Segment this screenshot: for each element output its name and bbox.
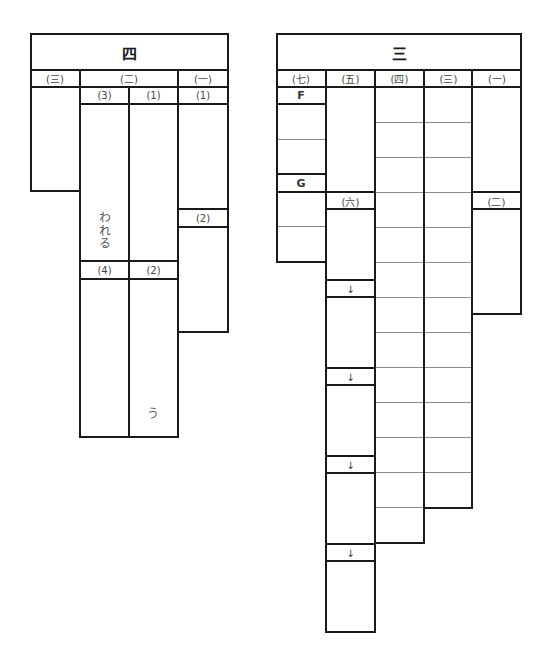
- answer-cell-ichi-2[interactable]: [179, 228, 227, 331]
- sub-label-ichi-1: (1): [178, 87, 228, 104]
- arrow-down-icon: ↓: [326, 545, 375, 561]
- grid-line: [425, 402, 471, 403]
- answer-cell-ni-1[interactable]: [130, 105, 177, 261]
- sub-label-ni-4: (4): [80, 262, 129, 279]
- answer-cell-roku-1[interactable]: [327, 210, 374, 279]
- arrow-down-icon: ↓: [326, 281, 375, 297]
- section-label-ni: (二): [80, 69, 178, 87]
- grid-line: [376, 507, 423, 508]
- sub-label-ni-right: (二): [472, 193, 521, 209]
- section-label-ichi: (一): [178, 69, 228, 87]
- grid-line: [425, 192, 471, 193]
- answer-cell-roku-4[interactable]: [327, 474, 374, 543]
- answer-cell-roku-2[interactable]: [327, 298, 374, 367]
- answer-cell-F-1[interactable]: [278, 105, 325, 139]
- sub-label-ni-3: (3): [80, 87, 129, 104]
- section-label-yon: (四): [375, 69, 424, 87]
- grid-line: [425, 367, 471, 368]
- answer-cell-ichi-1[interactable]: [179, 105, 227, 208]
- answer-cell-ni-4[interactable]: [81, 280, 128, 436]
- section-label-san: (三): [424, 69, 473, 87]
- section-label-go: (五): [326, 69, 375, 87]
- grid-line: [425, 297, 471, 298]
- grid-line: [376, 157, 423, 158]
- answer-cell-ni-right[interactable]: [473, 210, 520, 313]
- sub-label-G: G: [276, 175, 326, 192]
- sub-label-ichi-2: (2): [178, 210, 228, 227]
- sub-label-ni-1: (1): [129, 87, 178, 104]
- sub-label-F: F: [276, 87, 326, 104]
- answer-text-ni-2: う: [145, 404, 161, 420]
- grid-line: [425, 262, 471, 263]
- grid-line: [425, 437, 471, 438]
- grid-line: [376, 262, 423, 263]
- sub-label-ni-2: (2): [129, 262, 178, 279]
- answer-area-yon: [374, 86, 425, 544]
- grid-line: [425, 157, 471, 158]
- grid-line: [376, 192, 423, 193]
- answer-cell-G-2[interactable]: [278, 227, 325, 261]
- answer-cell-F-2[interactable]: [278, 140, 325, 173]
- answer-text-ni-3: われる: [92, 205, 116, 255]
- grid-line: [425, 332, 471, 333]
- grid-line: [376, 332, 423, 333]
- grid-line: [425, 227, 471, 228]
- section-label-shichi: (七): [276, 69, 326, 87]
- answer-cell-ichi-right[interactable]: [473, 88, 520, 191]
- grid-line: [376, 367, 423, 368]
- sub-label-roku: (六): [326, 193, 375, 209]
- grid-line: [425, 122, 471, 123]
- grid-line: [376, 297, 423, 298]
- grid-line: [376, 402, 423, 403]
- table-3-title: 三: [276, 33, 522, 71]
- answer-box-san[interactable]: [30, 86, 81, 192]
- answer-cell-G-1[interactable]: [278, 193, 325, 226]
- table-4-title: 四: [30, 33, 229, 71]
- section-label-ichi: (一): [473, 69, 521, 87]
- arrow-down-icon: ↓: [326, 369, 375, 385]
- section-label-san: (三): [30, 69, 80, 87]
- arrow-down-icon: ↓: [326, 457, 375, 473]
- answer-cell-roku-3[interactable]: [327, 386, 374, 455]
- grid-line: [376, 472, 423, 473]
- grid-line: [376, 122, 423, 123]
- grid-line: [376, 227, 423, 228]
- answer-cell-go[interactable]: [327, 88, 374, 191]
- answer-cell-roku-5[interactable]: [327, 562, 374, 631]
- grid-line: [425, 472, 471, 473]
- grid-line: [376, 437, 423, 438]
